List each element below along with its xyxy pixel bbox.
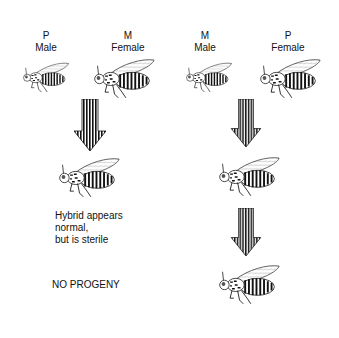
strain-label: M [98, 30, 158, 42]
note-line: but is sterile [55, 234, 123, 246]
strain-label: M [175, 30, 235, 42]
sex-label: Female [98, 42, 158, 54]
striped-down-arrow-icon [230, 99, 262, 147]
note-line: normal, [55, 222, 123, 234]
strain-label: P [16, 30, 76, 42]
striped-down-arrow-icon [74, 99, 106, 151]
fly-icon [90, 58, 156, 98]
fly-icon [20, 60, 70, 94]
fly-icon [215, 154, 281, 198]
parent-label-p-male: P Male [16, 30, 76, 54]
sex-label: Male [175, 42, 235, 54]
parent-label-m-male: M Male [175, 30, 235, 54]
sex-label: Male [16, 42, 76, 54]
fly-icon [55, 155, 121, 199]
fly-icon [183, 60, 233, 94]
striped-down-arrow-icon [230, 208, 262, 256]
parent-label-p-female: P Female [258, 30, 318, 54]
parent-label-m-female: M Female [98, 30, 158, 54]
fly-icon [256, 58, 322, 98]
no-progeny-label: NO PROGENY [52, 279, 120, 291]
fly-icon [215, 262, 281, 306]
sex-label: Female [258, 42, 318, 54]
hybrid-note: Hybrid appears normal, but is sterile [55, 210, 123, 246]
strain-label: P [258, 30, 318, 42]
note-line: Hybrid appears [55, 210, 123, 222]
